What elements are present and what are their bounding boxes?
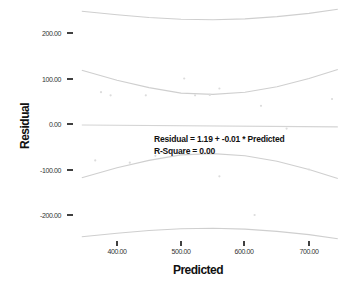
fit-line [82,125,338,127]
regression-line [82,125,338,127]
data-point [218,175,220,177]
data-point [145,94,147,96]
y-tick-label: 0.00 [49,121,62,128]
data-point [331,98,333,100]
x-axis: 400.00 500.00 600.00 700.00 [107,241,319,255]
residual-plot: 200.00 100.00 0.00 -100.00 -200.00 400.0… [0,0,357,293]
mean-ci-band-upper [82,69,338,94]
prediction-band-lower [82,228,338,239]
data-point [94,159,96,161]
y-tick-label: 100.00 [42,76,62,83]
data-point [194,94,196,96]
data-point [254,214,256,216]
data-point [218,87,220,89]
y-tick-label: -100.00 [40,167,61,174]
x-axis-title: Predicted [173,263,223,277]
x-tick-label: 700.00 [299,248,319,255]
data-point [110,94,112,96]
data-point [308,168,310,170]
mean-ci-band-lower [82,154,338,179]
y-tick-label: -200.00 [40,212,61,219]
y-tick-label: 200.00 [42,30,62,37]
y-axis-title: Residual [18,103,32,149]
data-point [286,127,288,129]
data-point [260,105,262,107]
prediction-band-upper [82,9,338,19]
data-point [183,77,185,79]
y-axis: 200.00 100.00 0.00 -100.00 -200.00 [40,30,73,219]
confidence-bands [82,9,338,238]
x-tick-label: 500.00 [171,248,191,255]
data-point [100,91,102,93]
regression-equation: Residual = 1.19 + -0.01 * Predicted [154,134,285,144]
x-tick-label: 600.00 [234,248,254,255]
data-point [209,94,211,96]
r-square-label: R-Square = 0.00 [154,146,215,156]
x-tick-label: 400.00 [107,248,127,255]
data-point [129,162,131,164]
